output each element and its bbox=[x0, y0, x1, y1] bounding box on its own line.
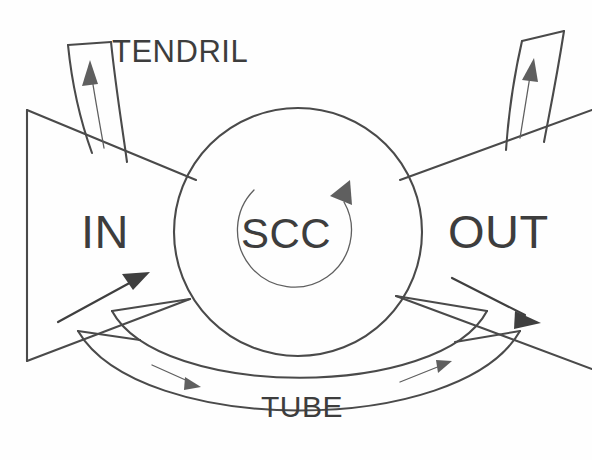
arrow-scc-to-out-head bbox=[514, 311, 541, 329]
tendril-right-outer-edge bbox=[544, 31, 564, 142]
arrow-in-to-scc bbox=[58, 272, 150, 322]
tube-left-upper-join bbox=[112, 299, 190, 311]
tendril-right-inner-edge bbox=[506, 41, 522, 150]
scc-circular-arrowhead bbox=[330, 180, 352, 205]
tendril-label: TENDRIL bbox=[112, 34, 248, 69]
arrow-tube-left-shaft bbox=[152, 365, 190, 382]
tendril-right-shape bbox=[506, 31, 564, 150]
tendril-left-arrowhead bbox=[82, 60, 98, 86]
out-label: OUT bbox=[448, 205, 549, 258]
scc-label: SCC bbox=[241, 210, 331, 257]
tube-label: TUBE bbox=[261, 390, 343, 423]
arrow-tube-left bbox=[152, 365, 201, 390]
tendril-left-top-edge bbox=[68, 42, 111, 45]
arrow-in-to-scc-head bbox=[122, 272, 150, 290]
tube-right-upper-join bbox=[396, 296, 487, 311]
tendril-right-top-edge bbox=[522, 31, 564, 41]
bowtie-diagram-svg: Bowtie structure of the web graph bbox=[0, 0, 592, 460]
diagram-canvas: Bowtie structure of the web graph bbox=[0, 0, 592, 460]
arrow-tube-right-head bbox=[436, 360, 452, 373]
tendril-left-inner-edge bbox=[68, 45, 92, 153]
arrow-tube-left-head bbox=[184, 377, 201, 390]
tube-inner-arc bbox=[112, 311, 487, 378]
in-top-edge bbox=[27, 110, 196, 180]
arrow-scc-to-out-shaft bbox=[452, 278, 525, 315]
in-label: IN bbox=[81, 205, 129, 258]
out-top-edge bbox=[400, 110, 592, 180]
arrow-in-to-scc-shaft bbox=[58, 280, 135, 322]
tendril-right-arrowhead bbox=[522, 58, 538, 82]
arrow-tube-right-shaft bbox=[400, 366, 440, 382]
in-bottom-edge bbox=[27, 299, 190, 361]
